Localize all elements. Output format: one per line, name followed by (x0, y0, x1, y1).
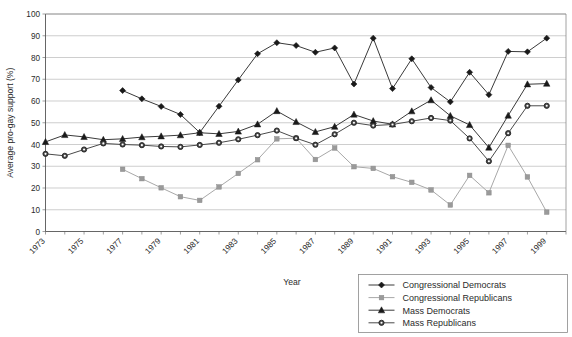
y-axis-tick-label: 70 (31, 75, 41, 84)
x-axis-tick-label: 1997 (490, 236, 510, 256)
data-point-marker (428, 97, 434, 103)
data-point-marker-center (391, 123, 393, 125)
x-axis-tick-label: 1987 (298, 236, 318, 256)
data-point-marker-center (276, 130, 278, 132)
data-point-marker (448, 203, 453, 208)
data-point-marker (158, 103, 164, 109)
y-axis-tick-label: 0 (35, 228, 40, 237)
data-point-marker-center (353, 122, 355, 124)
legend-item-label: Congressional Democrats (403, 280, 507, 290)
data-point-marker (62, 132, 68, 138)
data-point-marker-center (160, 145, 162, 147)
data-point-marker-center (237, 138, 239, 140)
x-axis-tick-label: 1993 (413, 236, 433, 256)
data-point-marker (409, 180, 414, 185)
data-point-marker (371, 166, 376, 171)
data-point-marker (332, 146, 337, 151)
x-axis-tick-label: 1975 (66, 236, 86, 256)
line-chart-plot: 0102030405060708090100 19731975197719791… (0, 0, 572, 337)
data-point-marker (197, 198, 202, 203)
data-point-marker (274, 40, 280, 46)
y-axis-tick-label: 40 (31, 141, 41, 150)
series-mass-republicans (43, 103, 549, 164)
data-point-marker-center (526, 105, 528, 107)
data-point-marker-center (179, 146, 181, 148)
chart-container: 0102030405060708090100 19731975197719791… (0, 0, 572, 337)
data-point-marker-center (380, 322, 382, 324)
y-tick-labels: 0102030405060708090100 (26, 10, 40, 237)
x-tick-labels: 1973197519771979198119831985198719891991… (28, 236, 549, 256)
data-point-marker (390, 174, 395, 179)
x-axis-tick-label: 1991 (375, 236, 395, 256)
data-point-marker (140, 176, 145, 181)
data-point-marker-center (546, 105, 548, 107)
data-point-marker (525, 175, 530, 180)
y-axis-title: Average pro-gay support (%) (5, 68, 15, 178)
data-point-marker-center (430, 117, 432, 119)
data-point-marker (120, 88, 126, 94)
data-point-marker (120, 167, 125, 172)
series-line (46, 106, 547, 161)
data-point-marker-center (44, 153, 46, 155)
data-point-marker-center (314, 144, 316, 146)
x-axis-tick-label: 1973 (28, 236, 48, 256)
data-point-marker (178, 194, 183, 199)
x-axis-tick-label: 1983 (220, 236, 240, 256)
data-series-layer (42, 35, 550, 214)
series-congressional-republicans (120, 136, 549, 215)
x-axis-tick-label: 1999 (529, 236, 549, 256)
data-point-marker (351, 111, 357, 117)
data-point-marker (293, 118, 299, 124)
x-axis-tick-label: 1981 (182, 236, 202, 256)
y-axis-tick-label: 60 (31, 97, 41, 106)
data-point-marker-center (64, 155, 66, 157)
legend-item-label: Mass Democrats (403, 306, 471, 316)
chart-legend: Congressional DemocratsCongressional Rep… (359, 275, 568, 333)
data-point-marker-center (488, 160, 490, 162)
data-point-marker (332, 45, 338, 51)
data-point-marker (379, 295, 384, 300)
data-point-marker-center (334, 133, 336, 135)
data-point-marker (293, 43, 299, 49)
data-point-marker (409, 108, 415, 114)
data-point-marker-center (102, 142, 104, 144)
data-point-marker-center (449, 120, 451, 122)
y-axis-tick-label: 20 (31, 184, 41, 193)
data-point-marker (352, 164, 357, 169)
data-point-marker-center (199, 144, 201, 146)
data-point-marker-center (295, 137, 297, 139)
data-point-marker (236, 171, 241, 176)
data-point-marker-center (141, 144, 143, 146)
data-point-marker-center (507, 132, 509, 134)
data-point-marker (351, 81, 357, 87)
y-axis-tick-label: 90 (31, 32, 41, 41)
x-axis-title: Year (283, 277, 301, 287)
data-point-marker (274, 108, 280, 114)
x-axis-tick-label: 1985 (259, 236, 279, 256)
legend-item-label: Mass Republicans (403, 318, 477, 328)
data-point-marker (390, 86, 396, 92)
data-point-marker (505, 48, 511, 54)
y-axis-tick-label: 50 (31, 119, 41, 128)
data-point-marker-center (122, 143, 124, 145)
data-point-marker (255, 157, 260, 162)
data-point-marker (159, 185, 164, 190)
data-point-marker (313, 157, 318, 162)
data-point-marker (312, 49, 318, 55)
x-axis-tick-label: 1989 (336, 236, 356, 256)
data-point-marker-center (469, 137, 471, 139)
axis-titles: Average pro-gay support (%)Year (5, 68, 301, 287)
data-point-marker (275, 137, 280, 142)
data-point-marker (505, 112, 511, 118)
series-line (123, 38, 547, 132)
y-axis-tick-label: 10 (31, 206, 41, 215)
y-axis-tick-label: 80 (31, 54, 41, 63)
data-point-marker (409, 56, 415, 62)
data-point-marker-center (411, 120, 413, 122)
data-point-marker-center (83, 148, 85, 150)
legend-item-label: Congressional Republicans (403, 293, 513, 303)
data-point-marker-center (372, 125, 374, 127)
data-point-marker (544, 210, 549, 215)
data-point-marker-center (218, 142, 220, 144)
data-point-marker (217, 185, 222, 190)
